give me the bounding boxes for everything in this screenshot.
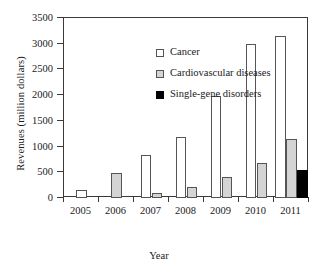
bar-cancer-2011 [275, 36, 286, 198]
y-tick-label: 1500 [9, 114, 53, 125]
x-tick-mark [63, 197, 64, 202]
y-tick-label: 1000 [9, 140, 53, 151]
legend-label: Single-gene disorders [170, 89, 261, 100]
sgd-swatch [156, 91, 164, 99]
y-tick-label: 2500 [9, 63, 53, 74]
x-tick-mark [203, 197, 204, 202]
y-tick-label: 3000 [9, 37, 53, 48]
x-axis-title: Year [0, 250, 318, 261]
x-tick-mark [98, 197, 99, 202]
x-tick-mark [168, 197, 169, 202]
plot-area: CancerCardiovascular diseasesSingle-gene… [63, 17, 308, 197]
legend-item-cvd: Cardiovascular diseases [156, 63, 271, 84]
chart-legend: CancerCardiovascular diseasesSingle-gene… [156, 42, 271, 105]
bar-sgd-2011 [297, 170, 308, 198]
x-tick-mark [133, 197, 134, 202]
bar-cvd-2011 [286, 139, 297, 198]
y-tick-label: 2000 [9, 89, 53, 100]
legend-label: Cardiovascular diseases [170, 68, 271, 79]
bar-cvd-2008 [187, 187, 198, 198]
x-tick-label: 2011 [266, 205, 316, 216]
legend-item-sgd: Single-gene disorders [156, 84, 271, 105]
x-tick-mark [273, 197, 274, 202]
x-tick-mark [238, 197, 239, 202]
bar-cancer-2009 [211, 96, 222, 198]
x-tick-mark [308, 197, 309, 202]
legend-item-cancer: Cancer [156, 42, 271, 63]
bar-cvd-2007 [152, 193, 163, 198]
y-tick-label: 500 [9, 166, 53, 177]
cancer-swatch [156, 49, 164, 57]
bar-cancer-2008 [176, 137, 187, 198]
legend-label: Cancer [170, 47, 200, 58]
bar-cancer-2007 [141, 155, 152, 198]
y-tick-label: 0 [9, 192, 53, 203]
cvd-swatch [156, 70, 164, 78]
bar-cancer-2005 [76, 190, 87, 198]
bar-cvd-2010 [257, 163, 268, 198]
bar-cvd-2006 [111, 173, 122, 198]
bar-cvd-2009 [222, 177, 233, 198]
bar-chart: Revenues (million dollars) 0500100015002… [0, 0, 318, 272]
y-tick-label: 3500 [9, 12, 53, 23]
